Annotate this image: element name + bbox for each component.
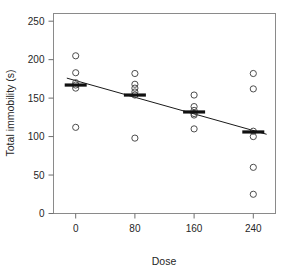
scatter-plot: 050100150200250 080160240 Dose Total imm…	[0, 0, 286, 276]
y-tick-label: 150	[28, 93, 45, 104]
y-tick-label: 0	[39, 208, 45, 219]
y-tick-label: 50	[33, 170, 45, 181]
y-axis-title: Total immobility (s)	[4, 70, 16, 157]
x-axis-title: Dose	[152, 255, 177, 267]
x-tick-label: 0	[73, 223, 79, 234]
y-tick-label: 200	[28, 54, 45, 65]
y-tick-label: 250	[28, 16, 45, 27]
x-tick-label: 160	[186, 223, 203, 234]
chart-figure: 050100150200250 080160240 Dose Total imm…	[0, 0, 286, 276]
y-tick-label: 100	[28, 131, 45, 142]
x-tick-label: 80	[129, 223, 141, 234]
x-tick-label: 240	[245, 223, 262, 234]
